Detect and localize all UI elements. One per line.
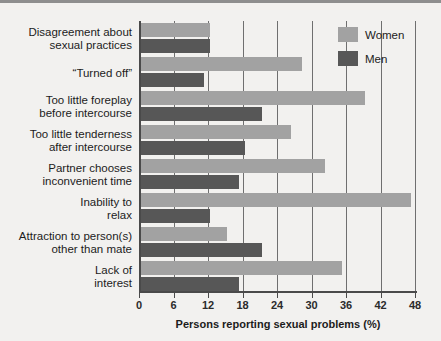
- category-label-line: other than mate: [0, 243, 132, 256]
- x-axis-tick: [243, 293, 244, 298]
- category-label-line: Too little foreplay: [0, 94, 132, 107]
- bar-women: [141, 261, 342, 275]
- bar-chart-figure: 0612182430364248 Disagreement aboutsexua…: [0, 0, 441, 341]
- x-axis-title: Persons reporting sexual problems (%): [139, 318, 417, 330]
- bar-women: [141, 23, 210, 37]
- category-label-line: “Turned off”: [0, 67, 132, 80]
- chart-legend: WomenMen: [338, 27, 404, 75]
- x-axis-tick: [312, 293, 313, 298]
- chart-category-row: Too little foreplaybefore intercourse: [0, 89, 441, 123]
- chart-category-row: Attraction to person(s)other than mate: [0, 225, 441, 259]
- x-axis-tick: [415, 293, 416, 298]
- bar-men: [141, 73, 204, 87]
- category-label: Too little foreplaybefore intercourse: [0, 94, 132, 120]
- category-label: Attraction to person(s)other than mate: [0, 230, 132, 256]
- x-axis-tick: [139, 293, 140, 298]
- category-label-line: before intercourse: [0, 107, 132, 120]
- x-axis-tick: [346, 293, 347, 298]
- category-label: Inability torelax: [0, 196, 132, 222]
- category-label: Disagreement aboutsexual practices: [0, 26, 132, 52]
- legend-label: Men: [365, 53, 387, 65]
- chart-category-row: Too little tendernessafter intercourse: [0, 123, 441, 157]
- legend-label: Women: [365, 29, 404, 41]
- category-label-line: Too little tenderness: [0, 128, 132, 141]
- category-label-line: Lack of: [0, 264, 132, 277]
- chart-category-row: Lack ofinterest: [0, 259, 441, 293]
- x-axis-tick: [381, 293, 382, 298]
- chart-category-row: Partner choosesinconvenient time: [0, 157, 441, 191]
- category-label-line: interest: [0, 277, 132, 290]
- bar-men: [141, 175, 239, 189]
- category-label: Partner choosesinconvenient time: [0, 162, 132, 188]
- bar-women: [141, 227, 227, 241]
- x-axis-tick: [277, 293, 278, 298]
- bar-men: [141, 277, 239, 291]
- bar-men: [141, 39, 210, 53]
- category-label-line: inconvenient time: [0, 175, 132, 188]
- legend-swatch: [338, 27, 358, 42]
- category-label-line: Partner chooses: [0, 162, 132, 175]
- category-label: Too little tendernessafter intercourse: [0, 128, 132, 154]
- category-label: “Turned off”: [0, 67, 132, 80]
- bar-men: [141, 209, 210, 223]
- bar-women: [141, 193, 411, 207]
- x-axis-tick: [174, 293, 175, 298]
- x-axis-tick: [208, 293, 209, 298]
- legend-item: Men: [338, 51, 404, 66]
- category-label-line: Attraction to person(s): [0, 230, 132, 243]
- category-label-line: after intercourse: [0, 141, 132, 154]
- category-label-line: Disagreement about: [0, 26, 132, 39]
- category-label-line: sexual practices: [0, 39, 132, 52]
- legend-swatch: [338, 51, 358, 66]
- x-axis-tick-label: 48: [395, 299, 435, 311]
- bar-women: [141, 159, 325, 173]
- legend-item: Women: [338, 27, 404, 42]
- bar-women: [141, 91, 365, 105]
- bar-men: [141, 141, 245, 155]
- category-label: Lack ofinterest: [0, 264, 132, 290]
- bar-men: [141, 243, 262, 257]
- category-label-line: relax: [0, 209, 132, 222]
- chart-category-row: Inability torelax: [0, 191, 441, 225]
- bar-women: [141, 57, 302, 71]
- bar-men: [141, 107, 262, 121]
- category-label-line: Inability to: [0, 196, 132, 209]
- bar-women: [141, 125, 291, 139]
